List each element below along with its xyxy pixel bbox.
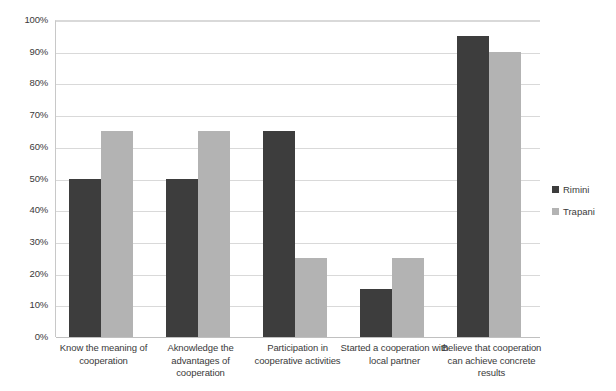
legend-label: Trapani xyxy=(563,206,595,217)
bar-trapani xyxy=(392,258,424,337)
y-axis-tick-label: 10% xyxy=(0,300,48,310)
y-axis-tick-label: 20% xyxy=(0,269,48,279)
y-axis-tick-label: 50% xyxy=(0,174,48,184)
y-axis-tick-label: 40% xyxy=(0,205,48,215)
bar-rimini xyxy=(166,179,198,338)
category-label: Believe that cooperation can achieve con… xyxy=(437,342,546,380)
bar-rimini xyxy=(263,131,295,337)
bar-trapani xyxy=(489,52,521,337)
bar-rimini xyxy=(457,36,489,337)
y-axis-tick-label: 70% xyxy=(0,110,48,120)
bar-rimini xyxy=(69,179,101,338)
legend-label: Rimini xyxy=(563,184,589,195)
bars-layer xyxy=(56,21,540,337)
bar-group xyxy=(153,21,250,337)
category-label: Know the meaning of cooperation xyxy=(49,342,158,367)
plot-area xyxy=(55,20,540,337)
bar-group xyxy=(444,21,541,337)
legend-swatch-icon xyxy=(552,186,559,193)
legend-item-trapani[interactable]: Trapani xyxy=(552,206,614,217)
category-label: Started a cooperation with local partner xyxy=(340,342,449,367)
legend-swatch-icon xyxy=(552,208,559,215)
category-label: Participation in cooperative activities xyxy=(243,342,352,367)
bar-trapani xyxy=(295,258,327,337)
bar-rimini xyxy=(360,289,392,337)
y-axis: 0%10%20%30%40%50%60%70%80%90%100% xyxy=(0,20,48,337)
y-axis-tick-label: 0% xyxy=(0,332,48,342)
gridline xyxy=(56,337,540,338)
bar-group xyxy=(250,21,347,337)
bar-trapani xyxy=(198,131,230,337)
y-axis-tick-label: 90% xyxy=(0,47,48,57)
y-axis-tick-label: 100% xyxy=(0,15,48,25)
y-axis-tick-label: 60% xyxy=(0,142,48,152)
bar-chart: 0%10%20%30%40%50%60%70%80%90%100% Know t… xyxy=(0,0,616,391)
x-axis-category-labels: Know the meaning of cooperationAknowledg… xyxy=(55,342,540,391)
y-axis-tick-label: 80% xyxy=(0,78,48,88)
bar-group xyxy=(56,21,153,337)
bar-group xyxy=(347,21,444,337)
chart-legend: RiminiTrapani xyxy=(552,184,614,228)
y-axis-tick-label: 30% xyxy=(0,237,48,247)
category-label: Aknowledge the advantages of cooperation xyxy=(146,342,255,380)
bar-trapani xyxy=(101,131,133,337)
legend-item-rimini[interactable]: Rimini xyxy=(552,184,614,195)
